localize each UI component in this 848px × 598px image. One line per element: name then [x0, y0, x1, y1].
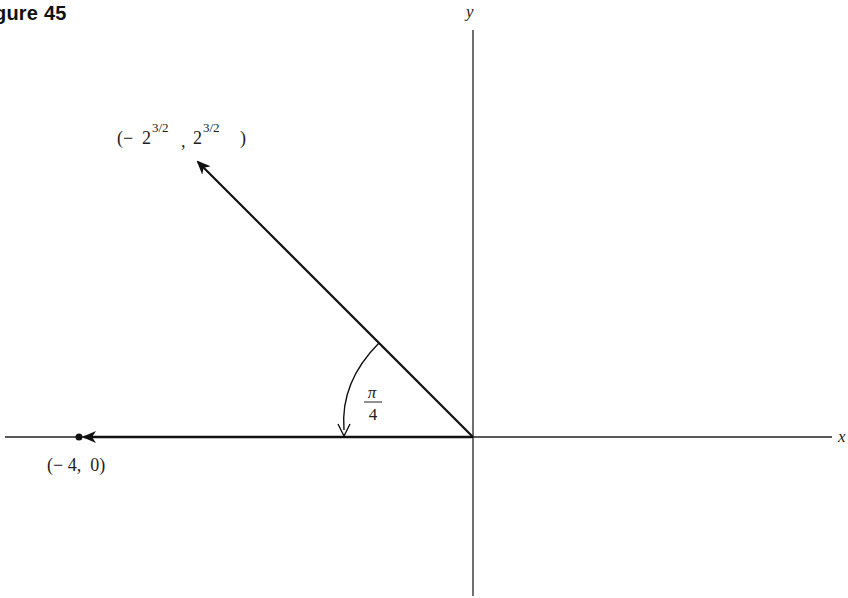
angle-numerator: π: [368, 383, 377, 402]
y-axis-label: y: [464, 2, 474, 21]
label-comma: ,: [181, 131, 186, 151]
x-axis-label: x: [837, 427, 846, 446]
vector-rotated-label: (− 2 3/2 , 2 3/2 ): [117, 120, 246, 151]
label-close: ): [240, 128, 246, 149]
label-exp2: 3/2: [203, 120, 220, 135]
label-exp1: 3/2: [152, 120, 169, 135]
label-base1: 2: [142, 128, 151, 148]
coordinate-diagram: π 4 (− 2 3/2 , 2 3/2 ) (− 4, 0) x y: [0, 0, 848, 598]
label-base2: 2: [193, 128, 202, 148]
vector-rotated: [198, 162, 473, 437]
angle-denominator: 4: [369, 405, 378, 424]
point-dot: [76, 434, 83, 441]
label-open: (−: [117, 128, 133, 149]
vector-original-label: (− 4, 0): [47, 455, 105, 476]
